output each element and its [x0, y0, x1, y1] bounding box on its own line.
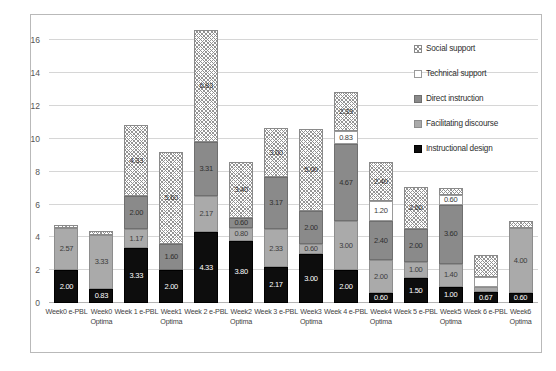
bar-stack[interactable]: 2.172.333.173.00	[264, 128, 288, 303]
bar-segment-fac[interactable]: 1.00	[404, 262, 428, 278]
bar-value-label: 0.60	[304, 245, 317, 253]
bar-value-label: 3.33	[95, 258, 108, 266]
bar-stack[interactable]: 1.501.002.002.60	[404, 187, 428, 303]
bar-stack[interactable]: 3.331.172.004.33	[124, 125, 148, 303]
bar-segment-direct[interactable]: 3.60	[439, 205, 463, 264]
bar-segment-tech[interactable]: 0.83	[334, 131, 358, 145]
bar-stack[interactable]: 1.001.403.600.60	[439, 188, 463, 303]
bar-segment-instr[interactable]: 2.00	[54, 270, 78, 303]
bar-segment-tech[interactable]	[474, 277, 498, 287]
bar-stack[interactable]: 3.000.602.005.00	[299, 129, 323, 303]
bar-segment-direct[interactable]: 3.17	[264, 177, 288, 229]
bar-segment-social[interactable]: 2.40	[369, 162, 393, 201]
bar-segment-instr[interactable]: 3.00	[299, 254, 323, 303]
bar-segment-social[interactable]	[439, 188, 463, 195]
y-tick-label: 8	[0, 167, 40, 177]
legend-swatch-instr-icon	[414, 145, 422, 153]
bar-segment-fac[interactable]	[474, 287, 498, 292]
bar-segment-social[interactable]: 2.60	[404, 187, 428, 230]
legend-label: Social support	[426, 44, 475, 53]
bar-value-label: 4.33	[199, 264, 212, 272]
x-axis-labels: Week0 e-PBLWeek0OptimaWeek 1 e-PBLWeek1O…	[49, 305, 538, 351]
bar-segment-social[interactable]: 6.83	[194, 30, 218, 142]
bar-segment-direct[interactable]: 0.60	[229, 218, 253, 228]
bar-segment-social[interactable]	[54, 225, 78, 228]
bar-segment-instr[interactable]: 0.60	[369, 293, 393, 303]
bar-segment-instr[interactable]: 1.50	[404, 278, 428, 303]
bar-segment-instr[interactable]: 0.60	[509, 293, 533, 303]
bar-segment-social[interactable]: 5.60	[159, 152, 183, 244]
bar-value-label: 3.00	[304, 275, 317, 283]
bar-value-label: 0.60	[374, 294, 387, 302]
bar-stack[interactable]: 2.002.57	[54, 225, 78, 303]
bar-value-label: 2.00	[374, 273, 387, 281]
bar-segment-fac[interactable]: 1.17	[124, 229, 148, 248]
bar-segment-direct[interactable]: 2.00	[299, 211, 323, 244]
y-tick-label: 6	[0, 200, 40, 210]
bar-segment-instr[interactable]: 1.00	[439, 287, 463, 303]
x-tick-label-line: Optima	[429, 317, 473, 327]
bar-segment-direct[interactable]: 3.31	[194, 142, 218, 196]
bar-segment-instr[interactable]: 3.33	[124, 248, 148, 303]
bar-value-label: 1.60	[165, 253, 178, 261]
bar-value-label: 2.33	[269, 245, 282, 253]
bar-stack[interactable]: 2.003.004.670.832.33	[334, 92, 358, 303]
bar-segment-fac[interactable]: 1.40	[439, 264, 463, 287]
bar-segment-social[interactable]	[509, 221, 533, 228]
bar-value-label: 3.60	[444, 230, 457, 238]
bar-segment-tech[interactable]: 1.20	[369, 201, 393, 221]
bar-segment-fac[interactable]: 0.80	[229, 228, 253, 241]
bar-segment-fac[interactable]: 0.60	[299, 244, 323, 254]
bar-value-label: 0.80	[234, 230, 247, 238]
bar-segment-social[interactable]: 5.00	[299, 129, 323, 211]
x-tick-label-line: Optima	[149, 317, 193, 327]
bar-stack[interactable]: 4.332.173.316.83	[194, 30, 218, 303]
x-tick-label-line: Optima	[219, 317, 263, 327]
bar-segment-direct[interactable]: 2.40	[369, 221, 393, 260]
y-tick-label: 4	[0, 232, 40, 242]
bar-segment-tech[interactable]: 0.60	[439, 195, 463, 205]
bar-stack[interactable]: 0.67	[474, 255, 498, 303]
bar-stack[interactable]: 0.833.33	[89, 231, 113, 303]
legend-item-fac[interactable]: Facilitating discourse	[414, 111, 540, 136]
bar-segment-instr[interactable]: 0.83	[89, 289, 113, 303]
x-tick-label-line: Optima	[79, 317, 123, 327]
bar-segment-instr[interactable]: 0.67	[474, 292, 498, 303]
bar-segment-social[interactable]: 4.33	[124, 125, 148, 196]
bar-stack[interactable]: 0.604.00	[509, 221, 533, 303]
bar-segment-social[interactable]	[89, 231, 113, 234]
bar-segment-fac[interactable]: 2.33	[264, 229, 288, 267]
y-tick-label: 14	[0, 68, 40, 78]
bar-segment-fac[interactable]: 3.33	[89, 235, 113, 290]
bar-segment-social[interactable]: 3.00	[264, 128, 288, 177]
bar-stack[interactable]: 2.001.605.60	[159, 152, 183, 303]
bar-segment-instr[interactable]: 4.33	[194, 232, 218, 303]
bar-stack[interactable]: 3.800.800.603.40	[229, 162, 253, 303]
bar-segment-social[interactable]: 3.40	[229, 162, 253, 218]
bar-segment-instr[interactable]: 2.00	[334, 270, 358, 303]
legend-item-tech[interactable]: Technical support	[414, 61, 540, 86]
legend-item-social[interactable]: Social support	[414, 36, 540, 61]
bar-segment-fac[interactable]: 2.00	[369, 260, 393, 293]
bar-segment-direct[interactable]: 4.67	[334, 144, 358, 221]
bar-segment-fac[interactable]: 3.00	[334, 221, 358, 270]
bar-segment-social[interactable]: 2.33	[334, 92, 358, 130]
y-tick-label: 0	[0, 298, 40, 308]
legend-item-instr[interactable]: Instructional design	[414, 136, 540, 161]
bar-segment-direct[interactable]: 2.00	[404, 229, 428, 262]
bar-segment-instr[interactable]: 2.00	[159, 270, 183, 303]
bar-segment-fac[interactable]: 2.17	[194, 196, 218, 232]
bar-value-label: 4.00	[514, 257, 527, 265]
legend-label: Facilitating discourse	[426, 119, 498, 128]
bar-stack[interactable]: 0.602.002.401.202.40	[369, 162, 393, 303]
legend-swatch-social-icon	[414, 45, 422, 53]
legend-item-direct[interactable]: Direct instruction	[414, 86, 540, 111]
bar-segment-social[interactable]	[474, 255, 498, 277]
bar-segment-fac[interactable]: 2.57	[54, 228, 78, 270]
bar-value-label: 0.67	[479, 294, 492, 302]
bar-segment-instr[interactable]: 2.17	[264, 267, 288, 303]
bar-segment-direct[interactable]: 1.60	[159, 244, 183, 270]
bar-segment-fac[interactable]: 4.00	[509, 228, 533, 294]
bar-segment-instr[interactable]: 3.80	[229, 241, 253, 303]
bar-segment-direct[interactable]: 2.00	[124, 196, 148, 229]
